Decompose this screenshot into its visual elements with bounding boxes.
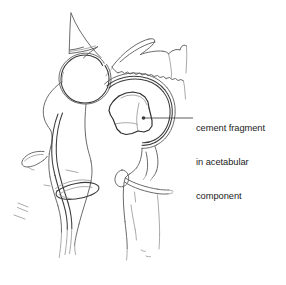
femoral-shaft [43,82,92,258]
shaft-cortex-marks [14,170,78,219]
pubic-ramus [124,178,174,194]
cement-fragment [109,92,152,135]
acetabular-component [105,69,176,149]
radiograph-tracing-figure: cement fragment in acetabular component [0,0,286,285]
cement-fragment-annotation: cement fragment in acetabular component [196,100,284,225]
annotation-line-1: cement fragment [196,123,284,134]
ischium [125,147,158,181]
ilium [112,39,187,99]
annotation-line-2: in acetabular [196,157,284,168]
lesser-trochanter [22,151,47,170]
inferior-pelvic-outline [123,187,159,260]
leader-dot [142,116,146,120]
greater-trochanter-wedge [69,13,101,58]
annotation-line-3: component [196,191,284,202]
femoral-head-prosthesis [59,53,111,104]
callout-leader [142,116,193,120]
